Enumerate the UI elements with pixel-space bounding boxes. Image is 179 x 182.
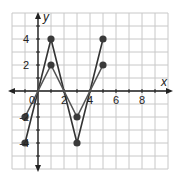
- y-tick-label: -4: [19, 137, 29, 149]
- coordinate-graph: 246842-2-40xy: [0, 0, 179, 182]
- x-tick-label: 2: [61, 94, 67, 106]
- y-tick-label: -2: [19, 111, 29, 123]
- x-axis-label: x: [160, 75, 168, 89]
- x-tick-label: 4: [87, 94, 93, 106]
- y-tick-label: 2: [23, 59, 29, 71]
- data-point: [99, 35, 106, 42]
- data-point: [47, 61, 54, 68]
- y-tick-label: 4: [23, 33, 29, 45]
- data-point: [73, 113, 80, 120]
- data-point: [47, 35, 54, 42]
- data-point: [73, 139, 80, 146]
- x-tick-label: 8: [139, 94, 145, 106]
- x-axis-right-arrow-icon: [166, 88, 173, 94]
- data-point: [99, 61, 106, 68]
- origin-label: 0: [29, 94, 35, 106]
- x-tick-label: 6: [113, 94, 119, 106]
- y-axis-label: y: [42, 10, 50, 24]
